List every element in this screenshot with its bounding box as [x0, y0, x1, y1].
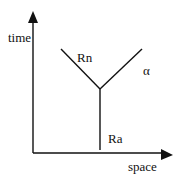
spacetime-diagram: time space Rn α Ra — [0, 0, 181, 182]
space-axis-label: space — [128, 159, 157, 174]
alpha-label: α — [143, 63, 150, 78]
alpha-worldline — [100, 49, 142, 89]
diagram-svg: time space Rn α Ra — [0, 0, 181, 182]
space-axis-arrowhead — [161, 149, 173, 160]
time-axis-label: time — [8, 30, 31, 45]
rn-label: Rn — [77, 50, 93, 65]
ra-label: Ra — [108, 131, 123, 146]
time-axis-arrowhead — [28, 11, 38, 23]
